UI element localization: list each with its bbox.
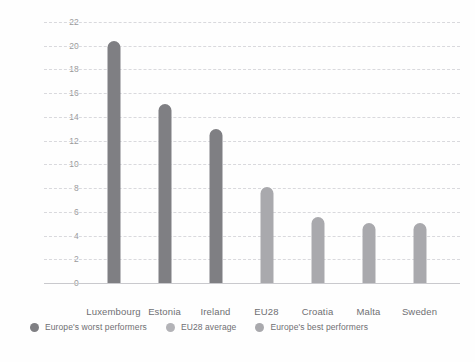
bar-slot [394,14,445,291]
x-axis-label-luxembourg: Luxembourg [86,306,140,317]
bar[interactable] [260,187,273,283]
legend-label: Europe's best performers [270,322,368,332]
bar-slot [241,14,292,291]
bar[interactable] [413,223,426,284]
legend-label: EU28 average [181,322,237,332]
bar[interactable] [209,129,222,283]
x-axis-label-eu28: EU28 [254,306,278,317]
bar-slot [190,14,241,291]
bar-slot [88,14,139,291]
x-axis-label-estonia: Estonia [148,306,181,317]
bar-chart: 0246810121416182022 LuxembourgEstoniaIre… [0,0,475,362]
bar-slot [139,14,190,291]
legend-item-2[interactable]: EU28 average [166,322,237,332]
bar[interactable] [158,104,171,283]
legend-item-3[interactable]: Europe's best performers [255,322,368,332]
chart-legend: Europe's worst performersEU28 averageEur… [30,322,368,332]
bar[interactable] [107,41,120,283]
x-axis-labels: LuxembourgEstoniaIrelandEU28CroatiaMalta… [88,306,445,322]
x-axis-label-malta: Malta [357,306,381,317]
x-axis-label-croatia: Croatia [302,306,334,317]
bar-slot [292,14,343,291]
legend-swatch-circle-icon [255,323,264,332]
plot-area: 0246810121416182022 LuxembourgEstoniaIre… [44,14,460,291]
legend-item-1[interactable]: Europe's worst performers [30,322,147,332]
legend-swatch-circle-icon [30,323,39,332]
x-axis-label-sweden: Sweden [402,306,437,317]
legend-label: Europe's worst performers [45,322,147,332]
x-axis-label-ireland: Ireland [200,306,230,317]
bar-slot [343,14,394,291]
bar[interactable] [362,223,375,284]
bar[interactable] [311,217,324,283]
legend-swatch-circle-icon [166,323,175,332]
bar-series-group [88,14,445,291]
